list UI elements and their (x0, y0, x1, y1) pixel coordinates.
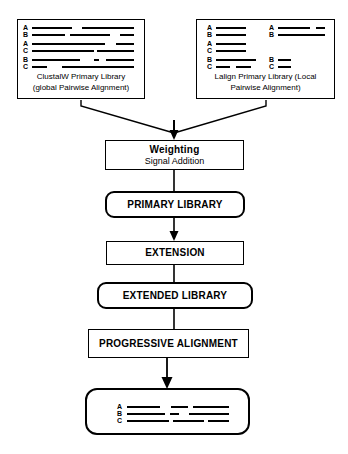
alignment-segment (32, 34, 65, 36)
weighting-subtitle: Signal Addition (145, 156, 205, 167)
alignment-segment (70, 34, 110, 36)
alignment-segment (216, 59, 256, 61)
clustalw-primary-library-box: ABACBC ClustalW Primary Library (global … (17, 19, 145, 99)
alignment-segment (127, 406, 160, 408)
alignment-segment (82, 27, 134, 29)
sequence-label-b: B (23, 31, 28, 38)
flowchart-diagram: ABACBC ClustalW Primary Library (global … (0, 0, 348, 454)
progressive-alignment-title: PROGRESSIVE ALIGNMENT (99, 338, 238, 350)
alignment-segment (127, 420, 169, 422)
sequence-label-b: B (117, 410, 122, 417)
sequence-label-c: C (207, 47, 212, 54)
alignment-segment (216, 66, 230, 68)
sequence-label-b: B (207, 31, 212, 38)
primary-library-step-box: PRIMARY LIBRARY (105, 191, 245, 218)
lalign-caption-line2: Pairwise Alignment) (197, 83, 334, 93)
alignment-segment (173, 420, 204, 422)
primary-library-title: PRIMARY LIBRARY (127, 199, 222, 211)
alignment-segment (278, 66, 291, 68)
sequence-label-c: C (23, 63, 28, 70)
extended-library-title: EXTENDED LIBRARY (123, 290, 228, 302)
alignment-segment (278, 27, 310, 29)
alignment-segment (216, 50, 246, 52)
weighting-step-box: Weighting Signal Addition (105, 140, 244, 170)
sequence-label-c: C (23, 47, 28, 54)
alignment-segment (278, 34, 325, 36)
alignment-segment (236, 66, 251, 68)
sequence-label-c: C (117, 417, 122, 424)
alignment-segment (97, 50, 134, 52)
sequence-label-b: B (269, 31, 274, 38)
alignment-segment (189, 413, 229, 415)
sequence-label-c: C (269, 63, 274, 70)
lalign-alignment-illustration: ABABACBCBC (197, 20, 334, 70)
alignment-segment (32, 43, 105, 45)
extended-library-step-box: EXTENDED LIBRARY (97, 282, 253, 309)
final-alignment-box: ABC (85, 388, 250, 435)
lalign-primary-library-box: ABABACBCBC Lalign Primary Library (Local… (196, 19, 335, 99)
clustalw-alignment-illustration: ABACBC (18, 20, 144, 70)
alignment-segment (116, 43, 134, 45)
alignment-segment (127, 413, 165, 415)
alignment-segment (32, 50, 94, 52)
alignment-segment (316, 27, 325, 29)
alignment-segment (171, 406, 188, 408)
clustalw-caption-line2: (global Pairwise Alignment) (18, 83, 144, 93)
alignment-segment (216, 43, 246, 45)
alignment-segment (120, 34, 134, 36)
alignment-segment (32, 66, 47, 68)
alignment-segment (170, 413, 179, 415)
extension-step-box: EXTENSION (106, 241, 244, 265)
alignment-segment (216, 34, 246, 36)
alignment-segment (94, 59, 99, 61)
alignment-segment (216, 27, 246, 29)
lalign-caption-line1: Lalign Primary Library (Local (197, 72, 334, 82)
sequence-label-a: A (117, 403, 122, 410)
sequence-label-c: C (207, 63, 212, 70)
final-alignment-illustration: ABC (117, 403, 237, 425)
alignment-segment (193, 406, 229, 408)
alignment-segment (278, 59, 291, 61)
clustalw-caption-line1: ClustalW Primary Library (18, 72, 144, 82)
alignment-segment (32, 27, 72, 29)
alignment-segment (62, 66, 134, 68)
progressive-alignment-step-box: PROGRESSIVE ALIGNMENT (88, 329, 249, 358)
extension-title: EXTENSION (145, 247, 205, 259)
alignment-segment (106, 59, 134, 61)
alignment-segment (32, 59, 80, 61)
alignment-segment (208, 420, 229, 422)
weighting-title: Weighting (150, 144, 200, 156)
